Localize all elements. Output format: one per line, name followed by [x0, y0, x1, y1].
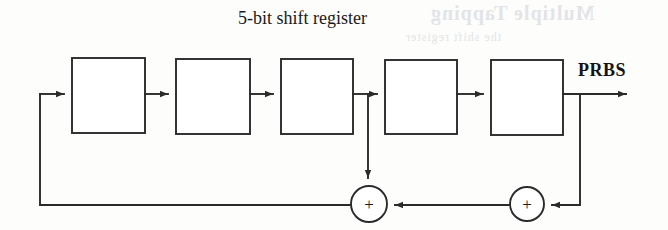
- register-stage-5: [491, 60, 563, 135]
- wiring-diagram: + +: [0, 0, 668, 230]
- figure-canvas: Multiple Tapping the shift register 5-bi…: [0, 0, 668, 230]
- register-stage-3: [281, 59, 353, 134]
- register-stage-1: [72, 58, 145, 133]
- register-stage-2: [176, 59, 250, 134]
- xor-right-plus-symbol: +: [522, 195, 532, 214]
- register-stage-4: [385, 60, 457, 134]
- xor-left-plus-symbol: +: [364, 195, 374, 214]
